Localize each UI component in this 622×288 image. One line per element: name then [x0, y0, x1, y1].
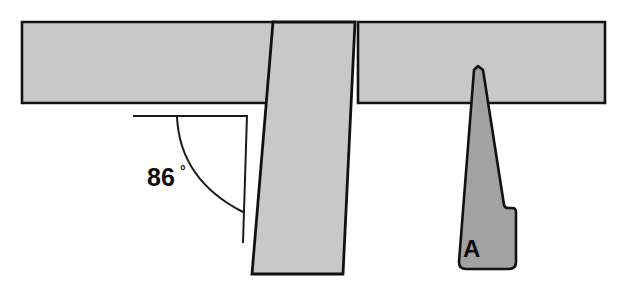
figure-canvas: 86 ° A [0, 0, 622, 288]
angle-degree-symbol: ° [180, 163, 186, 179]
part-a-label: A [463, 235, 480, 262]
angle-value-label: 86 [147, 163, 175, 191]
horizontal-bar-left-shape [22, 22, 274, 103]
angle-vertical-reference-line [243, 115, 247, 243]
technical-diagram: 86 ° A [0, 0, 622, 288]
angle-arc [177, 117, 243, 212]
